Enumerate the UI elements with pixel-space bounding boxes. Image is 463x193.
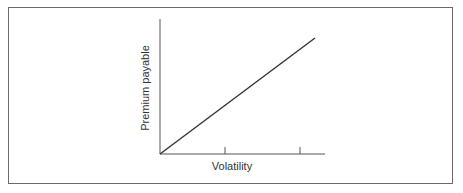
y-axis-label: Premium payable <box>139 45 151 131</box>
premium-line <box>160 38 315 154</box>
x-axis-label: Volatility <box>196 160 268 172</box>
